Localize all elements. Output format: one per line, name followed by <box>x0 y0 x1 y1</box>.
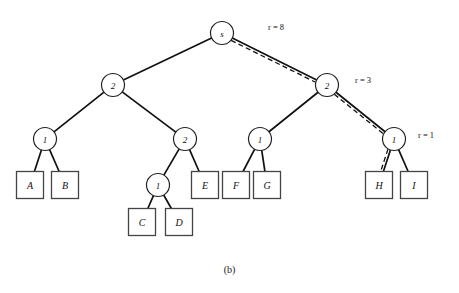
tree-edge <box>50 150 60 172</box>
tree-node: 1 <box>147 174 170 197</box>
tree-figure: ABCDEFGHI s2212111 r = 8r = 3r = 1 (b) <box>0 0 459 293</box>
leaf-label: B <box>62 180 68 191</box>
tree-node: 2 <box>174 128 197 151</box>
tree-edge <box>269 92 318 132</box>
tree-edge-highlighted <box>336 92 385 132</box>
figure-caption: (b) <box>0 264 459 275</box>
tree-edge <box>190 150 200 172</box>
edge-weight-label: r = 3 <box>355 75 371 85</box>
leaf-label: I <box>411 180 416 191</box>
tree-node: 1 <box>249 128 272 151</box>
node-label: s <box>220 29 224 39</box>
tree-node: 2 <box>316 74 339 97</box>
node-label: 2 <box>111 81 116 91</box>
leaf-box: B <box>52 172 79 199</box>
root-node: s <box>211 22 234 45</box>
leaf-label: A <box>26 180 34 191</box>
leaf-label: E <box>201 180 208 191</box>
highlight-path-dashed <box>231 40 315 82</box>
leaf-box: F <box>223 172 250 199</box>
leaf-boxes-layer: ABCDEFGHI <box>17 172 428 236</box>
tree-node: 1 <box>34 128 57 151</box>
leaf-label: C <box>139 217 146 228</box>
node-label: 1 <box>258 135 263 145</box>
tree-edge <box>34 150 41 172</box>
leaf-box: I <box>401 172 428 199</box>
node-label: 1 <box>156 181 161 191</box>
tree-edge <box>122 92 176 132</box>
leaf-label: H <box>374 180 383 191</box>
tree-edge <box>164 149 179 175</box>
leaf-label: F <box>232 180 240 191</box>
leaf-box: A <box>17 172 44 199</box>
node-label: 1 <box>392 135 397 145</box>
leaf-box: G <box>254 172 281 199</box>
leaf-box: E <box>192 172 219 199</box>
tree-edge <box>262 150 265 171</box>
edges-layer <box>34 38 408 209</box>
tree-diagram-canvas: ABCDEFGHI s2212111 r = 8r = 3r = 1 <box>0 0 459 293</box>
edge-weight-labels-layer: r = 8r = 3r = 1 <box>268 22 434 140</box>
leaf-box: C <box>129 209 156 236</box>
leaf-box: H <box>366 172 393 199</box>
leaf-label: D <box>174 217 183 228</box>
tree-nodes-layer: s2212111 <box>34 22 406 197</box>
tree-edge <box>148 196 154 209</box>
tree-node: 2 <box>102 74 125 97</box>
highlight-path-layer <box>231 40 388 170</box>
leaf-label: G <box>263 180 270 191</box>
edge-weight-label: r = 8 <box>268 22 284 32</box>
node-label: 2 <box>325 81 330 91</box>
highlight-path-dashed <box>334 94 383 134</box>
leaf-box: D <box>166 209 193 236</box>
tree-node: 1 <box>383 128 406 151</box>
tree-edge <box>123 38 211 80</box>
tree-edge <box>399 150 409 172</box>
tree-edge <box>164 195 172 208</box>
node-label: 1 <box>43 135 48 145</box>
node-label: 2 <box>183 135 188 145</box>
edge-weight-label: r = 1 <box>418 130 434 140</box>
tree-edge-highlighted <box>232 38 316 80</box>
tree-edge <box>54 92 104 132</box>
tree-edge <box>243 149 255 171</box>
